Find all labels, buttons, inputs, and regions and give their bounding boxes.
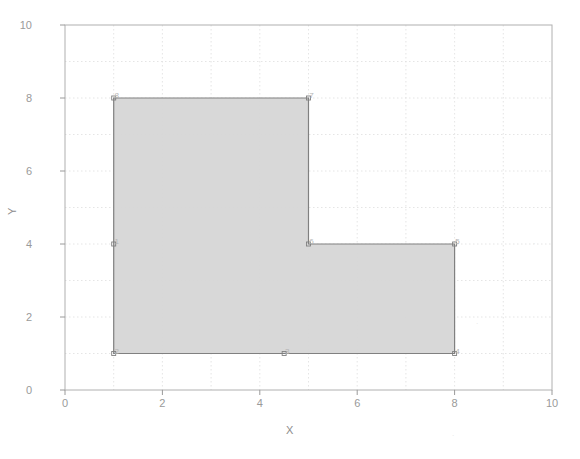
x-axis-label: X <box>0 424 580 436</box>
x-tick-label: 6 <box>354 397 360 409</box>
y-axis-label: Y <box>6 191 18 231</box>
scan-artifact: · <box>452 432 454 439</box>
y-tick-label: 8 <box>10 92 32 104</box>
y-tick-label: 4 <box>10 238 32 250</box>
scan-artifact: · <box>533 240 535 247</box>
y-tick-label: 6 <box>10 165 32 177</box>
x-tick-label: 4 <box>257 397 263 409</box>
x-tick-label: 0 <box>62 397 68 409</box>
y-tick-label: 2 <box>10 311 32 323</box>
x-tick-label: 10 <box>546 397 558 409</box>
x-tick-label: 2 <box>159 397 165 409</box>
y-tick-label: 0 <box>10 384 32 396</box>
scan-artifact: · <box>476 320 478 327</box>
chart-figure: X Y 0246810 0246810 12345678 · · · <box>0 0 580 459</box>
plot-canvas <box>0 0 580 459</box>
y-tick-label: 10 <box>10 19 32 31</box>
x-tick-label: 8 <box>452 397 458 409</box>
